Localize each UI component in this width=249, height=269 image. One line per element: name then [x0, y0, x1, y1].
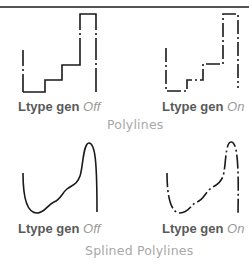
caption-polyline-on: Ltype gen On	[162, 100, 244, 114]
ltype-gen-state: On	[227, 221, 244, 236]
spline-ltype-off	[23, 143, 97, 213]
polyline-ltype-on	[166, 14, 238, 91]
ltype-gen-state: Off	[83, 99, 100, 114]
section-title-splined-polylines: Splined Polylines	[85, 244, 193, 258]
ltype-gen-state: On	[227, 99, 244, 114]
caption-spline-on: Ltype gen On	[162, 222, 244, 236]
ltype-gen-label: Ltype gen	[162, 99, 223, 114]
spline-ltype-on	[167, 142, 238, 213]
caption-spline-off: Ltype gen Off	[18, 222, 100, 236]
ltype-gen-state: Off	[83, 221, 100, 236]
section-title-polylines: Polylines	[107, 118, 163, 132]
ltype-gen-label: Ltype gen	[18, 221, 79, 236]
caption-polyline-off: Ltype gen Off	[18, 100, 100, 114]
ltype-gen-label: Ltype gen	[18, 99, 79, 114]
ltype-gen-label: Ltype gen	[162, 221, 223, 236]
polyline-ltype-off	[23, 14, 96, 92]
